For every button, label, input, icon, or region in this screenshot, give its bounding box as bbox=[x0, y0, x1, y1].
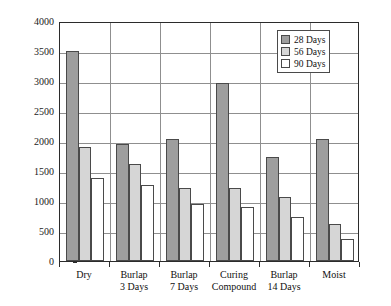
y-tick-label: 500 bbox=[18, 227, 54, 237]
bar bbox=[66, 51, 79, 261]
legend-swatch-icon bbox=[281, 47, 290, 56]
bar bbox=[129, 164, 142, 261]
x-tick-mark bbox=[109, 262, 110, 267]
bar bbox=[241, 207, 254, 261]
bar bbox=[216, 83, 229, 261]
y-tick-label: 1500 bbox=[18, 167, 54, 177]
legend-swatch-icon bbox=[281, 35, 290, 44]
legend-label: 28 Days bbox=[294, 35, 325, 45]
bar bbox=[229, 188, 242, 261]
legend-item: 28 Days bbox=[281, 34, 325, 45]
bar bbox=[179, 188, 192, 261]
y-tick-label: 4000 bbox=[18, 17, 54, 27]
bar bbox=[116, 144, 129, 261]
bar bbox=[91, 178, 104, 261]
y-tick-label: 3000 bbox=[18, 77, 54, 87]
y-tick-label: 2000 bbox=[18, 137, 54, 147]
y-tick-label: 1000 bbox=[18, 197, 54, 207]
bar bbox=[166, 139, 179, 261]
bar bbox=[291, 217, 304, 261]
bar bbox=[329, 224, 342, 261]
x-tick-mark bbox=[259, 262, 260, 267]
x-axis-label: Moist bbox=[299, 269, 369, 281]
legend-label: 90 Days bbox=[294, 59, 325, 69]
y-tick-label: 0 bbox=[18, 257, 54, 267]
y-axis-tick-labels: 05001000150020002500300035004000 bbox=[18, 22, 54, 262]
x-tick-mark bbox=[309, 262, 310, 267]
bar bbox=[79, 147, 92, 261]
legend-item: 56 Days bbox=[281, 46, 325, 57]
bar-chart: Charge Passed in 6 h (coulomb) 050010001… bbox=[0, 0, 391, 306]
x-tick-mark bbox=[59, 262, 60, 267]
legend: 28 Days56 Days90 Days bbox=[277, 30, 330, 73]
y-tick-label: 2500 bbox=[18, 107, 54, 117]
y-tick-label: 3500 bbox=[18, 47, 54, 57]
bar bbox=[191, 204, 204, 261]
x-tick-mark bbox=[159, 262, 160, 267]
bar bbox=[141, 185, 154, 261]
legend-label: 56 Days bbox=[294, 47, 325, 57]
bar bbox=[316, 139, 329, 261]
x-tick-mark bbox=[209, 262, 210, 267]
bar bbox=[341, 239, 354, 261]
bar bbox=[279, 197, 292, 261]
legend-swatch-icon bbox=[281, 59, 290, 68]
x-tick-mark bbox=[359, 262, 360, 267]
legend-item: 90 Days bbox=[281, 58, 325, 69]
bar bbox=[266, 157, 279, 261]
